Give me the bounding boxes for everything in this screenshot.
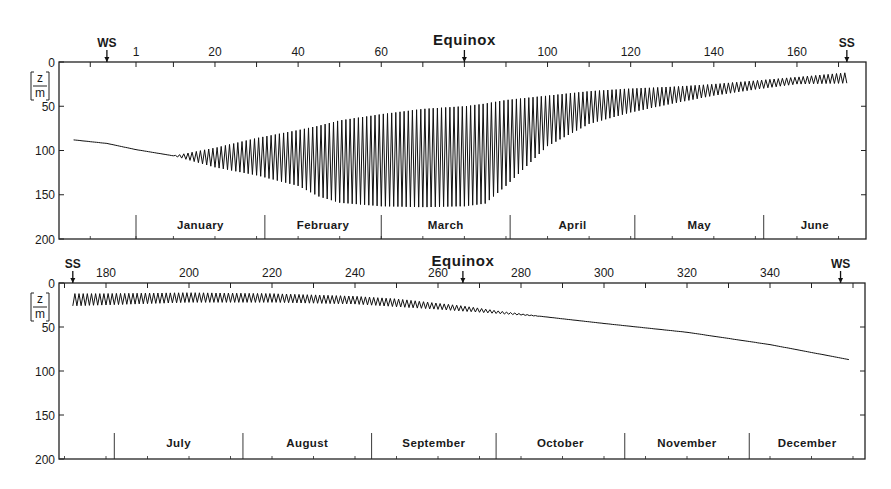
x-tick-label: 140 — [704, 45, 724, 59]
x-tick-label: 240 — [345, 266, 365, 280]
y-tick-label: 200 — [35, 233, 55, 247]
bottom-series — [73, 293, 849, 360]
y-tick-label: 150 — [35, 409, 55, 423]
top-ylabel-m: m — [35, 86, 45, 100]
month-label: March — [428, 219, 464, 231]
month-label: January — [177, 219, 224, 231]
y-tick-label: 100 — [35, 144, 55, 158]
marker-arrow-head-icon — [844, 57, 849, 62]
marker-label-ss: SS — [65, 257, 81, 271]
month-label: November — [657, 437, 717, 449]
y-tick-label: 50 — [42, 100, 56, 114]
month-label: July — [166, 437, 191, 449]
figure: 1204060100120140160 050100150200 January… — [0, 0, 891, 489]
x-tick-label: 220 — [262, 266, 282, 280]
top-x-ticks: 1204060100120140160 — [90, 45, 838, 239]
marker-arrow-head-icon — [462, 57, 467, 62]
x-tick-label: 160 — [787, 45, 807, 59]
month-label: September — [402, 437, 465, 449]
bottom-panel: 180200220240260280300320340 050100150200… — [31, 252, 865, 467]
x-tick-label: 60 — [375, 45, 389, 59]
y-tick-label: 0 — [48, 56, 55, 70]
x-tick-label: 280 — [511, 266, 531, 280]
month-label: February — [297, 219, 350, 231]
month-label: October — [537, 437, 584, 449]
x-tick-label: 120 — [621, 45, 641, 59]
month-label: December — [778, 437, 837, 449]
month-label: April — [558, 219, 586, 231]
bottom-ylabel-z: z — [37, 292, 43, 306]
marker-arrow-head-icon — [104, 57, 109, 62]
bottom-ylabel-m: m — [35, 307, 45, 321]
chart-canvas: 1204060100120140160 050100150200 January… — [0, 0, 891, 489]
marker-label-ss: SS — [839, 36, 855, 50]
marker-arrow-head-icon — [460, 278, 465, 283]
month-label: August — [286, 437, 328, 449]
x-tick-label: 20 — [208, 45, 222, 59]
y-tick-label: 0 — [48, 277, 55, 291]
month-label: June — [801, 219, 829, 231]
y-tick-label: 100 — [35, 365, 55, 379]
depth-series-line — [74, 73, 847, 207]
x-tick-label: 300 — [594, 266, 614, 280]
y-tick-label: 50 — [42, 321, 56, 335]
y-tick-label: 200 — [35, 453, 55, 467]
top-plot-frame — [59, 62, 866, 239]
marker-label-ws: WS — [97, 36, 116, 50]
top-month-band: JanuaryFebruaryMarchAprilMayJune — [136, 215, 829, 239]
x-tick-label: 340 — [760, 266, 780, 280]
x-tick-label: 200 — [179, 266, 199, 280]
bottom-month-band: JulyAugustSeptemberOctoberNovemberDecemb… — [114, 433, 836, 459]
x-tick-label: 180 — [96, 266, 116, 280]
x-tick-label: 40 — [291, 45, 305, 59]
top-series — [74, 73, 847, 207]
marker-label-ws: WS — [831, 257, 850, 271]
y-tick-label: 150 — [35, 188, 55, 202]
x-tick-label: 320 — [677, 266, 697, 280]
month-label: May — [687, 219, 711, 231]
marker-arrow-head-icon — [70, 278, 75, 283]
depth-series-line — [73, 293, 849, 360]
marker-label-equinox: Equinox — [432, 252, 495, 269]
x-tick-label: 1 — [133, 45, 140, 59]
top-panel: 1204060100120140160 050100150200 January… — [31, 31, 866, 247]
x-tick-label: 100 — [538, 45, 558, 59]
top-ylabel-z: z — [37, 71, 43, 85]
marker-arrow-head-icon — [838, 278, 843, 283]
marker-label-equinox: Equinox — [433, 31, 496, 48]
